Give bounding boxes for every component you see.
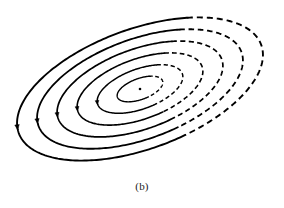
phase-portrait-diagram bbox=[0, 0, 284, 208]
figure-background bbox=[0, 0, 284, 208]
figure-container: (b) bbox=[0, 0, 284, 208]
figure-caption: (b) bbox=[0, 180, 284, 193]
center-equilibrium-dot bbox=[139, 88, 142, 91]
center-point-group bbox=[139, 88, 142, 91]
